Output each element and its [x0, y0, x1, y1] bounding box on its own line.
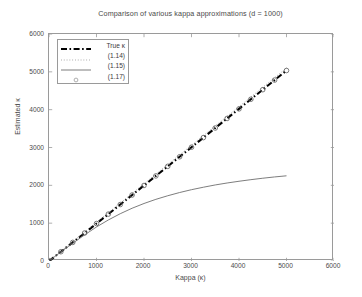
- y-tick-label: 6000: [4, 30, 44, 37]
- x-tick-label: 4000: [218, 262, 258, 269]
- x-tick-label: 5000: [266, 262, 306, 269]
- y-tick-label: 4000: [4, 105, 44, 112]
- chart-title: Comparison of various kappa approximatio…: [48, 9, 333, 18]
- legend-label: True κ: [92, 42, 128, 49]
- x-tick-label: 2000: [123, 262, 163, 269]
- x-tick-label: 3000: [171, 262, 211, 269]
- y-tick-label: 3000: [4, 143, 44, 150]
- x-tick-label: 0: [28, 262, 68, 269]
- y-tick-label: 2000: [4, 181, 44, 188]
- legend-box: True κ (1.14) (1.15) (1: [57, 39, 129, 84]
- legend-label: (1.14): [92, 52, 128, 59]
- circle-marker-icon: [60, 71, 92, 81]
- x-tick-label: 1000: [76, 262, 116, 269]
- legend-item-115: (1.15): [58, 61, 128, 71]
- y-tick-label: 1000: [4, 219, 44, 226]
- legend-item-114: (1.14): [58, 50, 128, 60]
- x-axis-label: Kappa (κ): [48, 274, 333, 281]
- x-tick-label: 6000: [313, 262, 353, 269]
- legend-label: (1.17): [92, 73, 128, 80]
- figure-canvas: Comparison of various kappa approximatio…: [0, 0, 362, 297]
- legend-item-true-kappa: True κ: [58, 40, 128, 50]
- dotted-line-icon: [60, 51, 92, 61]
- legend-label: (1.15): [92, 62, 128, 69]
- dash-dot-line-icon: [60, 40, 92, 50]
- solid-line-icon: [60, 61, 92, 71]
- data-series-group: [49, 68, 289, 261]
- y-tick-label: 5000: [4, 67, 44, 74]
- legend-item-117: (1.17): [58, 71, 128, 81]
